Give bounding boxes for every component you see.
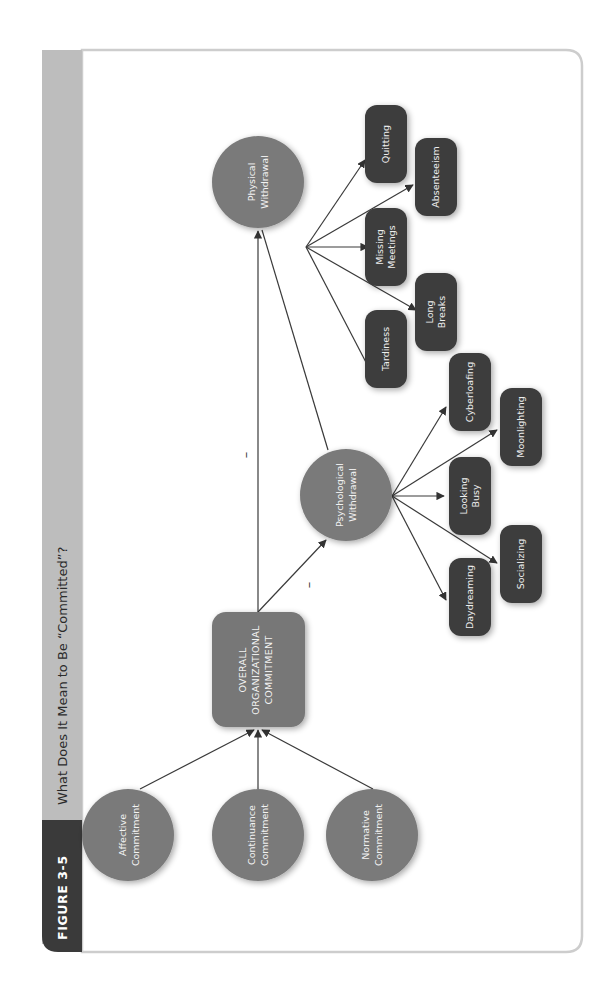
- missing-meetings-label-2: Meetings: [386, 225, 397, 268]
- affective-label-1: Affective: [117, 814, 128, 856]
- figure-title: What Does It Mean to Be “Committed”?: [55, 547, 70, 805]
- overall-label-1: OVERALL: [237, 647, 248, 693]
- overall-label-2: ORGANIZATIONAL: [250, 625, 261, 715]
- node-normative-commitment: [326, 789, 418, 881]
- figure-label: FIGURE 3-5: [55, 855, 70, 940]
- node-psychological-withdrawal: [300, 449, 392, 541]
- continuance-label-1: Continuance: [246, 805, 257, 865]
- looking-busy-label-1: Looking: [458, 478, 469, 515]
- long-breaks-label-2: Breaks: [436, 296, 447, 328]
- negative-sign-psychological: –: [301, 582, 316, 589]
- overall-label-3: COMMITMENT: [263, 635, 274, 704]
- node-continuance-commitment: [212, 789, 304, 881]
- continuance-label-2: Commitment: [259, 804, 270, 866]
- figure-canvas: FIGURE 3-5 What Does It Mean to Be “Comm…: [0, 0, 615, 1002]
- moonlighting-label: Moonlighting: [515, 396, 526, 458]
- node-physical-withdrawal: [212, 136, 304, 228]
- phys-label-2: Withdrawal: [259, 155, 270, 209]
- phys-label-1: Physical: [246, 163, 257, 202]
- normative-label-1: Normative: [360, 810, 371, 860]
- normative-label-2: Commitment: [373, 804, 384, 866]
- daydreaming-label: Daydreaming: [464, 565, 475, 629]
- quitting-label: Quitting: [380, 125, 391, 163]
- long-breaks-label-1: Long: [424, 301, 435, 324]
- absenteeism-label: Absenteeism: [430, 146, 441, 208]
- looking-busy-label-2: Busy: [470, 484, 481, 507]
- psych-label-2: Withdrawal: [347, 468, 358, 522]
- cyberloafing-label: Cyberloafing: [464, 362, 475, 422]
- tardiness-label: Tardiness: [380, 327, 391, 372]
- missing-meetings-label-1: Missing: [374, 229, 385, 264]
- node-affective-commitment: [82, 789, 174, 881]
- socializing-label: Socializing: [515, 539, 526, 589]
- psych-label-1: Psychological: [334, 463, 345, 527]
- negative-sign-physical: –: [238, 452, 253, 459]
- affective-label-2: Commitment: [130, 804, 141, 866]
